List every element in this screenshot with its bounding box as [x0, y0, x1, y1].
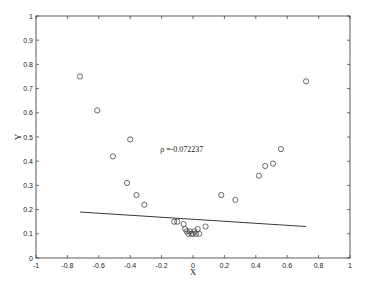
plot-frame: [36, 16, 350, 258]
data-point-marker: [134, 192, 139, 197]
data-points: [77, 74, 308, 237]
data-point-marker: [203, 224, 208, 229]
x-tick-label: 0.6: [282, 262, 292, 269]
correlation-annotation: ρ =-0.072237: [160, 145, 203, 154]
data-point-marker: [197, 231, 202, 236]
y-tick-label: 1: [29, 13, 33, 20]
x-tick-label: 0.2: [220, 262, 230, 269]
x-tick-label: 0.8: [314, 262, 324, 269]
x-axis-label: X: [190, 267, 197, 277]
x-tick-label: -0.8: [61, 262, 73, 269]
data-point-marker: [219, 192, 224, 197]
data-point-marker: [77, 74, 82, 79]
data-point-marker: [124, 180, 129, 185]
y-tick-label: 0.4: [23, 158, 33, 165]
data-point-marker: [256, 173, 261, 178]
data-point-marker: [110, 154, 115, 159]
y-tick-label: 0.2: [23, 206, 33, 213]
data-point-marker: [181, 222, 186, 227]
x-tick-label: -0.2: [156, 262, 168, 269]
y-tick-label: 0.7: [23, 85, 33, 92]
y-tick-label: 0.3: [23, 182, 33, 189]
data-point-marker: [303, 79, 308, 84]
x-tick-label: -1: [33, 262, 39, 269]
y-axis-label: Y: [13, 133, 23, 140]
y-tick-label: 0.8: [23, 61, 33, 68]
y-tick-label: 0: [29, 255, 33, 262]
data-point-marker: [270, 161, 275, 166]
data-point-marker: [142, 202, 147, 207]
data-point-marker: [263, 163, 268, 168]
data-point-marker: [233, 197, 238, 202]
data-point-marker: [175, 219, 180, 224]
y-tick-label: 0.6: [23, 109, 33, 116]
data-point-marker: [95, 108, 100, 113]
x-tick-label: 1: [348, 262, 352, 269]
fit-line: [80, 212, 306, 227]
y-tick-label: 0.1: [23, 230, 33, 237]
x-tick-label: -0.4: [124, 262, 136, 269]
y-tick-label: 0.9: [23, 37, 33, 44]
data-point-marker: [278, 147, 283, 152]
data-point-marker: [128, 137, 133, 142]
scatter-chart: -1-0.8-0.6-0.4-0.200.20.40.60.81 00.10.2…: [0, 0, 369, 288]
x-tick-label: 0.4: [251, 262, 261, 269]
y-tick-label: 0.5: [23, 134, 33, 141]
y-axis-ticks: 00.10.20.30.40.50.60.70.80.91: [23, 13, 350, 262]
x-tick-label: -0.6: [93, 262, 105, 269]
